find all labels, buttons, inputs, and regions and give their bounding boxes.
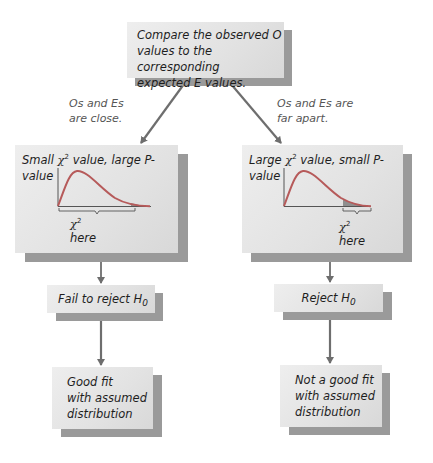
compare-box-face: Compare the observed O values to the cor… (127, 22, 284, 78)
arrow-top-to-right (231, 84, 281, 143)
not-good-fit-line-3: distribution (295, 404, 382, 420)
compare-line-1: Compare the observed O (137, 27, 284, 43)
edge-label-far: Os and Es are far apart. (277, 96, 353, 126)
brace-icon (59, 208, 135, 214)
good-fit-line-2: with assumed (67, 390, 153, 406)
reject-box-face: Reject H0 (274, 284, 383, 312)
reject-label: Reject H (301, 291, 349, 305)
compare-line-2: values to the corresponding (137, 43, 284, 75)
not-good-fit-line-2: with assumed (295, 388, 382, 404)
not-good-fit-line-1: Not a good fit (295, 372, 382, 388)
edge-label-far-line-2: far apart. (277, 111, 353, 126)
brace-icon (343, 208, 371, 214)
compare-line-3: expected E values. (137, 75, 284, 91)
edge-label-far-line-1: Os and Es are (277, 96, 353, 111)
good-fit-line-1: Good fit (67, 374, 153, 390)
large-chi-axis-label: χ2 here (339, 220, 365, 248)
chi-square-curve-large (281, 168, 381, 238)
edge-label-close-line-2: are close. (69, 111, 124, 126)
good-fit-face: Good fit with assumed distribution (52, 367, 153, 429)
fail-box-face: Fail to reject H0 (47, 285, 155, 313)
small-chi-axis-label: χ2 here (70, 217, 96, 245)
chi-symbol: χ (58, 153, 65, 167)
fail-to-reject-label: Fail to reject H (58, 292, 142, 306)
edge-label-close: Os and Es are close. (69, 96, 124, 126)
not-good-fit-face: Not a good fit with assumed distribution (280, 365, 382, 427)
arrow-top-to-left (141, 84, 184, 143)
good-fit-line-3: distribution (67, 406, 153, 422)
edge-label-close-line-1: Os and Es (69, 96, 124, 111)
